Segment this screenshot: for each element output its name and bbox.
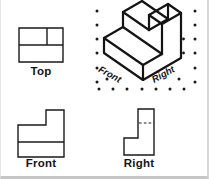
diagram-linework [1, 0, 209, 179]
grid-dot [98, 88, 101, 91]
iso-edge-grid-dots [182, 38, 185, 55]
front-view-outline [18, 110, 64, 157]
grid-dot [183, 88, 186, 91]
grid-dot [178, 78, 181, 81]
orthographic-projection-diagram: Top Front Right Front Right [0, 0, 209, 179]
top-view-label: Top [9, 65, 73, 77]
grid-dot [96, 38, 99, 41]
grid-dot [194, 81, 197, 84]
grid-dot [126, 88, 129, 91]
grid-dot [182, 38, 185, 41]
grid-dot [194, 52, 197, 55]
grid-dot [96, 24, 99, 27]
grid-dot [112, 88, 115, 91]
grid-dot [194, 38, 197, 41]
front-view-label: Front [9, 157, 73, 169]
top-view-drawing [19, 28, 63, 62]
right-view-outline [124, 109, 154, 155]
grid-dot [182, 52, 185, 55]
grid-dot [194, 10, 197, 13]
grid-dot [194, 24, 197, 27]
right-view-label: Right [107, 157, 171, 169]
grid-dot [194, 67, 197, 70]
grid-dot [155, 88, 158, 91]
grid-dot [141, 88, 144, 91]
front-view-drawing [18, 110, 64, 157]
grid-dot [96, 52, 99, 55]
grid-dot [169, 88, 172, 91]
grid-dot [96, 81, 99, 84]
right-view-drawing [124, 109, 154, 155]
grid-dot [96, 10, 99, 13]
